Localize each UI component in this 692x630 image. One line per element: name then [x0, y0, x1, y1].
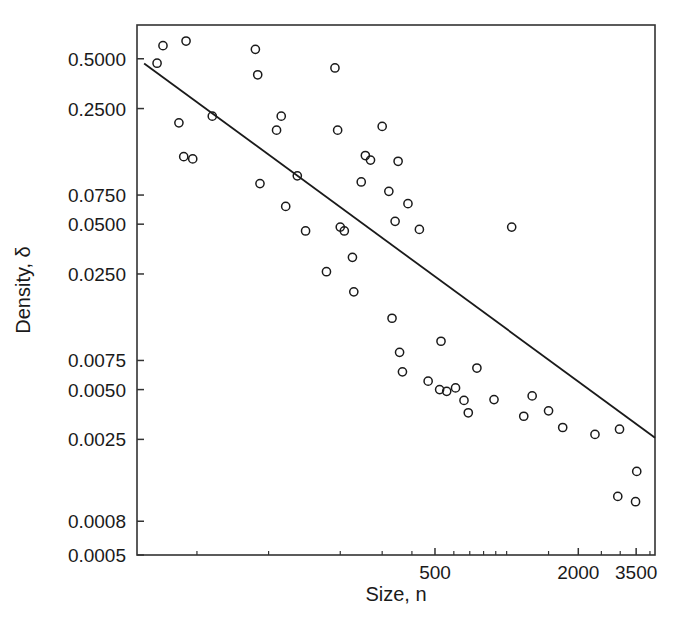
- y-tick-label: 0.0008: [68, 511, 126, 532]
- x-tick-label: 2000: [557, 562, 599, 583]
- y-tick-label: 0.0005: [68, 545, 126, 566]
- y-tick-label: 0.0500: [68, 214, 126, 235]
- y-tick-label: 0.0075: [68, 350, 126, 371]
- x-axis-title: Size, n: [365, 583, 426, 605]
- y-tick-label: 0.5000: [68, 49, 126, 70]
- plot-frame: [137, 25, 655, 555]
- x-tick-label: 3500: [615, 562, 657, 583]
- y-tick-label: 0.2500: [68, 99, 126, 120]
- x-tick-label: 500: [419, 562, 451, 583]
- plot-canvas: 0.50000.25000.07500.05000.02500.00750.00…: [0, 0, 692, 630]
- y-axis-title: Density, δ: [12, 246, 34, 333]
- y-tick-label: 0.0750: [68, 185, 126, 206]
- scatter-plot-figure: 0.50000.25000.07500.05000.02500.00750.00…: [0, 0, 692, 630]
- y-axis-tick-labels: 0.50000.25000.07500.05000.02500.00750.00…: [68, 49, 126, 566]
- x-axis-tick-labels: 50020003500: [419, 562, 657, 583]
- y-tick-label: 0.0050: [68, 380, 126, 401]
- y-tick-label: 0.0250: [68, 264, 126, 285]
- y-tick-label: 0.0025: [68, 429, 126, 450]
